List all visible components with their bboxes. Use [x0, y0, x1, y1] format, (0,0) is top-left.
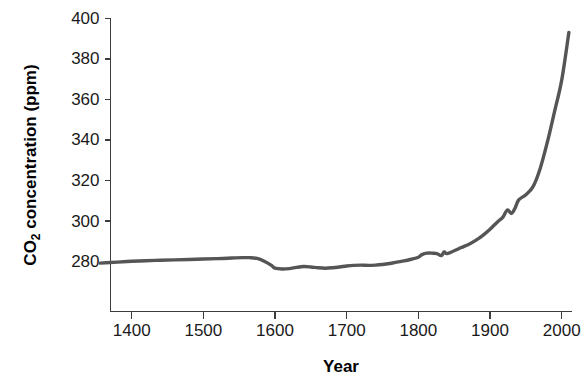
- y-tick-label: 380: [71, 49, 99, 68]
- y-tick-label: 280: [71, 252, 99, 271]
- x-tick-label: 1900: [471, 321, 509, 340]
- x-tick-label: 1400: [113, 321, 151, 340]
- chart-canvas: 280300320340360380400 140015001600170018…: [0, 0, 587, 392]
- y-tick-label: 400: [71, 9, 99, 28]
- x-tick-label: 1500: [184, 321, 222, 340]
- x-tick-label: 1700: [328, 321, 366, 340]
- x-tick-label: 1800: [399, 321, 437, 340]
- y-tick-label: 360: [71, 90, 99, 109]
- x-tick-label: 1600: [256, 321, 294, 340]
- y-axis-title-main: CO: [21, 240, 40, 266]
- x-axis-title: Year: [323, 357, 359, 376]
- x-tick-label: 2000: [543, 321, 581, 340]
- y-tick-label: 300: [71, 212, 99, 231]
- y-axis-title-rest: concentration (ppm): [21, 64, 40, 233]
- co2-concentration-chart: 280300320340360380400 140015001600170018…: [0, 0, 587, 392]
- y-tick-label: 320: [71, 171, 99, 190]
- y-tick-label: 340: [71, 130, 99, 149]
